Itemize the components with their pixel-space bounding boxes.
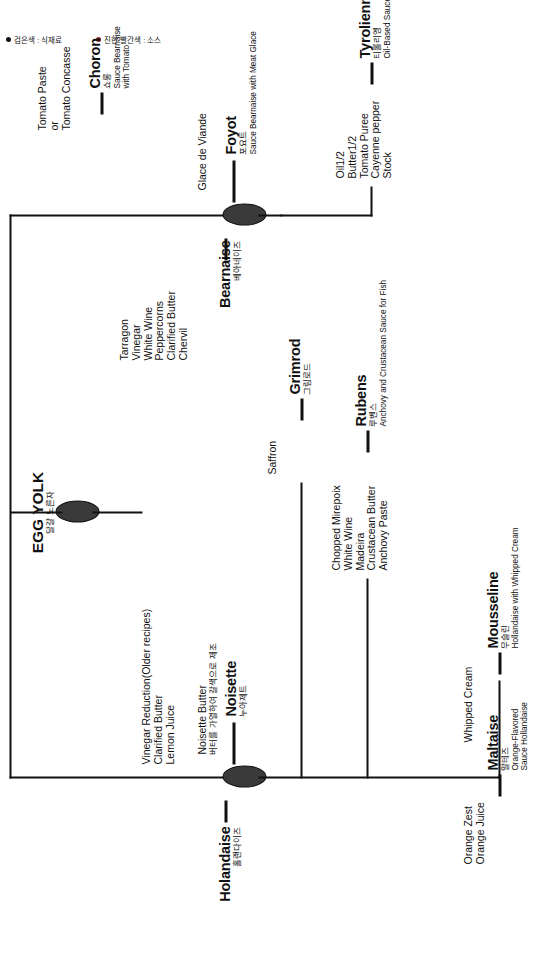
choron-tick [100,92,103,114]
rubens-korean: 루벤스 [368,146,378,426]
rubens-label: Rubens 루벤스 Anchovy and Crustacean Sauce … [352,146,387,426]
maltaise-label: Maltaise 말테즈 Orange-Flavored Sauce Holla… [484,590,529,770]
root-spine-lower [92,511,142,513]
hollandaise-label: Holandaise 홀랜다이즈 [216,826,242,954]
ingredient: Chervil [177,291,189,360]
hollandaise-drop [9,776,225,778]
bearnaise-ingredients: Tarragon Vinegar White Wine Peppercorns … [118,291,189,360]
diagram-stage: 검은색 : 식재료 진한 빨간색 : 소스 EGG YOLK 달걀 노른자 [0,0,533,960]
hollandaise-tick [224,800,227,822]
bearnaise-drop2 [258,214,282,216]
ingredient: Vinegar Reduction(Older recipes) [140,608,152,764]
tyrolienne-name: Tyrolienne [356,0,372,58]
bearnaise-name: Bearnaise [216,240,232,360]
ingredient: Crustacean Butter [365,485,377,570]
noisette-name: Noisette [222,516,238,716]
ingredient: Tarragon [118,291,130,360]
bearnaise-label: Bearnaise 베아네이즈 [216,240,242,360]
ingredient: White Wine [142,291,154,360]
foyot-label: Foyot 포요트 Sauce Bearnaise with Meat Glac… [222,0,257,154]
tyrolienne-tick [370,62,373,84]
ingredient: Whipped Cream [462,666,474,742]
foyot-tick [232,160,235,202]
hollandaise-ingredients: Vinegar Reduction(Older recipes) Clarifi… [140,608,175,764]
rubens-tick [366,430,369,452]
maltaise-tick [498,774,501,796]
grimrod-run [300,482,302,778]
noisette-ingredient-korean: 버터를 가열하여 갈색으로 제조 [208,643,218,754]
choron-label: Choron 쇼롱 Sauce Bearnaise with Tomato [86,0,131,88]
bearnaise-drop [9,214,225,216]
choron-name: Choron [86,0,102,88]
ingredient: Clarified Butter [165,291,177,360]
ingredient: Orange Juice [474,802,486,864]
rubens-run [366,578,368,778]
maltaise-korean: 말테즈 [500,590,510,770]
ingredient: Tomato Paste [36,0,48,130]
root-name: EGG YOLK [28,432,45,592]
root-branch-bar [9,214,11,778]
ingredient: Saffron [266,440,278,474]
grimrod-name: Grimrod [286,214,302,394]
tree-canvas: EGG YOLK 달걀 노른자 Tarragon Vinegar White W… [0,0,533,960]
ingredient: Orange Zest [462,802,474,864]
ingredient: Clarified Butter [152,608,164,764]
grimrod-korean: 그림로드 [302,214,312,394]
noisette-tick [232,722,235,764]
rubens-name: Rubens [352,146,368,426]
ingredient: Oil1/2 [334,100,346,178]
root-korean: 달걀 노른자 [45,432,55,592]
maltaise-name: Maltaise [484,590,500,770]
root-label: EGG YOLK 달걀 노른자 [28,432,55,592]
noisette-ingredients: Noisette Butter 버터를 가열하여 갈색으로 제조 [196,643,217,754]
ingredient: Vinegar [130,291,142,360]
ingredient: Peppercorns [153,291,165,360]
maltaise-ingredients: Orange Zest Orange Juice [462,802,486,864]
grimrod-ingredients: Saffron [266,440,278,474]
grimrod-tick [300,398,303,420]
hollandaise-korean: 홀랜다이즈 [232,826,242,954]
tyrolienne-desc: Oil-Based Sauce Bearnaise [382,0,391,58]
ingredient: Noisette Butter [196,643,208,754]
tyrolienne-label: Tyrolienne 티롤리엥 Oil-Based Sauce Bearnais… [356,0,391,58]
ingredient: Madeira [354,485,366,570]
ingredient: Chopped Mirepoix [330,485,342,570]
foyot-ingredients: Glace de Viande [196,113,208,190]
tyrolienne-korean: 티롤리엥 [372,0,382,58]
maltaise-desc-1: Orange-Flavored [510,590,519,770]
foyot-name: Foyot [222,0,238,154]
hollandaise-children-spine [258,776,500,778]
ingredient: Tomato Concasse [60,0,72,130]
rubens-ingredients: Chopped Mirepoix White Wine Madeira Crus… [330,485,389,570]
ingredient: White Wine [342,485,354,570]
grimrod-label: Grimrod 그림로드 [286,214,312,394]
rubens-desc: Anchovy and Crustacean Sauce for Fish [378,146,387,426]
choron-desc-2: with Tomato [121,0,130,88]
mousseline-ingredients: Whipped Cream [462,666,474,742]
choron-desc-1: Sauce Bearnaise [112,0,121,88]
choron-ingredients: Tomato Paste or Tomato Concasse [36,0,71,130]
maltaise-desc-2: Sauce Hollandaise [519,590,528,770]
foyot-korean: 포요트 [238,0,248,154]
choron-korean: 쇼롱 [102,0,112,88]
ingredient: Glace de Viande [196,113,208,190]
hollandaise-name: Holandaise [216,826,232,954]
bearnaise-korean: 베아네이즈 [232,240,242,360]
noisette-label: Noisette 누아제트 [222,516,248,716]
foyot-desc: Sauce Bearnaise with Meat Glace [248,0,257,154]
ingredient: Anchovy Paste [377,485,389,570]
noisette-korean: 누아제트 [238,516,248,716]
ingredient: Lemon Juice [164,608,176,764]
ingredient: or [48,0,60,130]
